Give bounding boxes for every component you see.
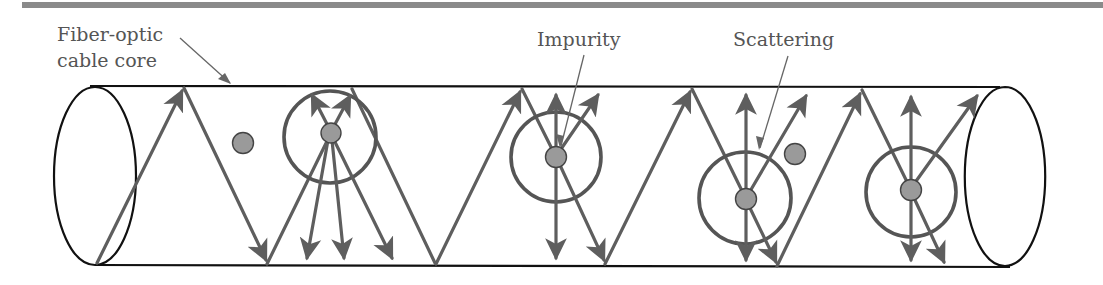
impurity-label: Impurity — [537, 28, 621, 50]
fiber-optic-scattering-diagram: Fiber-optic cable core Impurity Scatteri… — [0, 0, 1103, 285]
ray-segment — [352, 89, 435, 263]
scatter-arrow — [559, 95, 598, 152]
ray-segment — [605, 92, 690, 264]
cable-core-label-line1: Fiber-optic — [57, 23, 163, 45]
ray-arrow — [777, 94, 860, 266]
impurity-particle — [785, 144, 806, 165]
cable-right-end — [965, 87, 1045, 266]
header-bar — [22, 2, 1103, 8]
cable-left-end — [54, 87, 136, 265]
ray-arrow — [97, 91, 182, 263]
impurity-particle — [233, 133, 254, 154]
scattering-site-1 — [284, 91, 392, 258]
impurity-particle — [901, 180, 922, 201]
ray-arrow — [436, 92, 520, 264]
impurity-particle — [736, 189, 757, 210]
light-path-rays — [97, 88, 911, 266]
cable-top-edge — [90, 86, 1000, 87]
scattering-label: Scattering — [733, 28, 834, 50]
scatter-arrow — [312, 95, 329, 128]
scatter-arrow — [333, 96, 350, 128]
ray-segment — [267, 133, 331, 264]
scattering-site-4 — [866, 96, 977, 262]
impurity-particle — [546, 147, 567, 168]
impurity-particle — [321, 123, 341, 143]
ray-arrow — [184, 88, 266, 260]
cable-bottom-edge — [95, 265, 1010, 267]
scatter-arrow — [914, 198, 944, 262]
scattering-site-2 — [511, 95, 604, 260]
cable-core-label-line2: cable core — [57, 49, 157, 71]
